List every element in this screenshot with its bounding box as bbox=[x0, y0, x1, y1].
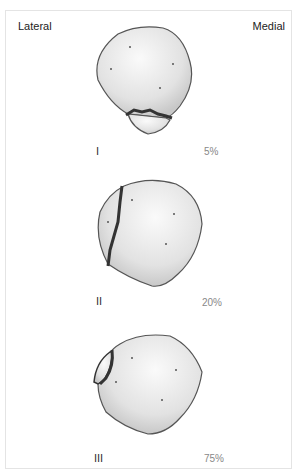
percent-label-1: 5% bbox=[204, 146, 218, 157]
percent-label-3: 75% bbox=[204, 453, 224, 464]
lateral-label: Lateral bbox=[18, 20, 52, 32]
grade-label-2: II bbox=[96, 295, 102, 307]
medial-label: Medial bbox=[253, 20, 285, 32]
patella-grade-3-illustration bbox=[90, 332, 208, 444]
percent-label-2: 20% bbox=[202, 297, 222, 308]
patella-grade-1-illustration bbox=[88, 24, 208, 140]
grade-label-3: III bbox=[94, 452, 103, 464]
patella-grade-2-illustration bbox=[94, 178, 210, 298]
grade-label-1: I bbox=[96, 145, 99, 157]
